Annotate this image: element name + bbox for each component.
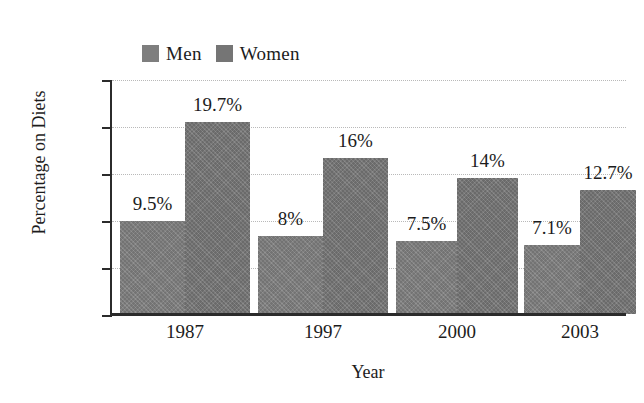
bar-label-women-1987: 19.7% — [193, 95, 242, 114]
bar-chart: Men Women Percentage on Diets 24% 20% 16… — [0, 0, 644, 403]
bar-men-2000[interactable]: 7.5% — [396, 241, 457, 314]
x-axis-tick-labels: 1987 1997 2000 2003 — [112, 322, 626, 348]
legend-label-women: Women — [240, 44, 300, 63]
bar-group-1987: 9.5% 19.7% — [120, 80, 250, 314]
bar-label-women-1997: 16% — [338, 131, 373, 150]
bar-label-men-1997: 8% — [278, 209, 303, 228]
bar-women-1997[interactable]: 16% — [323, 158, 388, 314]
bar-men-2003[interactable]: 7.1% — [524, 245, 580, 314]
bars-layer: 9.5% 19.7% 8% 16% 7.5% — [112, 80, 626, 314]
bar-group-2003: 7.1% 12.7% — [524, 80, 636, 314]
chart-legend: Men Women — [142, 40, 300, 66]
legend-entry-men: Men — [142, 44, 202, 63]
x-axis-spine — [110, 313, 626, 316]
plot-area: 9.5% 19.7% 8% 16% 7.5% — [110, 80, 626, 314]
legend-swatch-men-icon — [142, 45, 159, 62]
x-tick-label-1987: 1987 — [120, 322, 250, 341]
x-tick-label-2003: 2003 — [524, 322, 636, 341]
bar-group-1997: 8% 16% — [258, 80, 388, 314]
bar-label-men-2003: 7.1% — [532, 218, 572, 237]
bar-label-women-2003: 12.7% — [583, 163, 632, 182]
bar-women-2000[interactable]: 14% — [457, 178, 518, 315]
bar-men-1987[interactable]: 9.5% — [120, 221, 185, 314]
plot-inner: 9.5% 19.7% 8% 16% 7.5% — [110, 80, 626, 314]
bar-label-women-2000: 14% — [470, 151, 505, 170]
legend-entry-women: Women — [216, 44, 300, 63]
bar-women-2003[interactable]: 12.7% — [580, 190, 636, 314]
y-axis-title: Percentage on Diets — [29, 63, 50, 263]
x-axis-title: Year — [110, 362, 626, 383]
bar-label-men-1987: 9.5% — [133, 194, 173, 213]
legend-swatch-women-icon — [216, 45, 233, 62]
bar-men-1997[interactable]: 8% — [258, 236, 323, 314]
bar-label-men-2000: 7.5% — [407, 214, 447, 233]
x-tick-label-2000: 2000 — [396, 322, 518, 341]
bar-group-2000: 7.5% 14% — [396, 80, 518, 314]
x-tick-label-1997: 1997 — [258, 322, 388, 341]
y-axis-spine — [110, 80, 112, 314]
legend-label-men: Men — [166, 44, 202, 63]
bar-women-1987[interactable]: 19.7% — [185, 122, 250, 314]
